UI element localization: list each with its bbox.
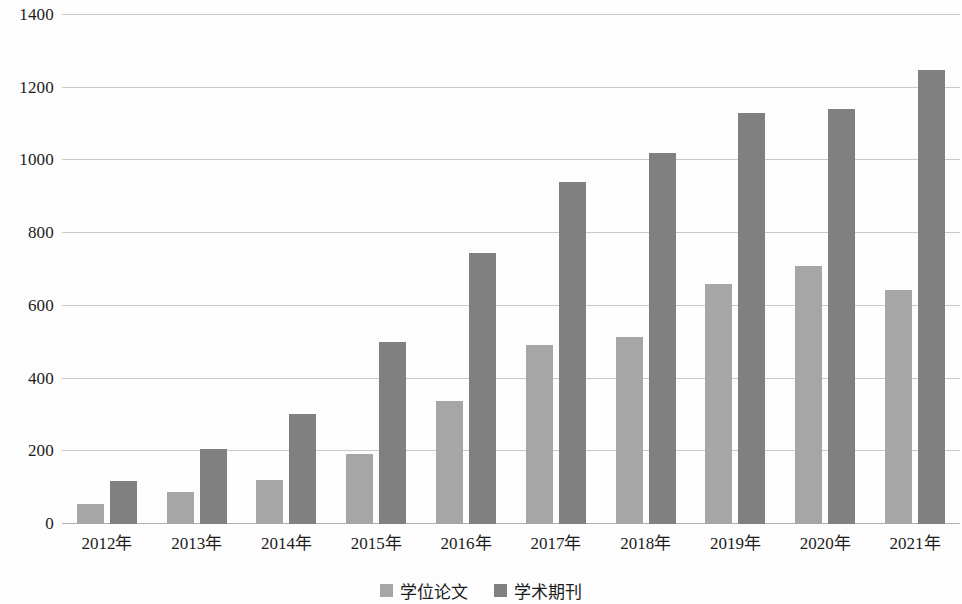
x-axis-tick-label: 2020年 [780,529,870,554]
y-axis-tick-label: 1400 [2,5,54,25]
bar-group [691,15,781,524]
bar [705,284,732,524]
y-axis-tick-label: 0 [2,514,54,534]
x-axis-tick-label: 2016年 [421,529,511,554]
legend-swatch-icon [494,584,507,597]
bar-group [62,15,152,524]
legend-swatch-icon [380,584,393,597]
x-axis-tick-label: 2019年 [691,529,781,554]
legend-item: 学术期刊 [494,578,582,603]
x-axis-tick-label: 2015年 [331,529,421,554]
bar [885,290,912,524]
bar [346,454,373,524]
x-axis-tick-label: 2014年 [242,529,332,554]
bar [77,504,104,524]
bar-group [242,15,332,524]
x-axis-tick-label: 2013年 [152,529,242,554]
bar [918,70,945,524]
x-axis-tick-label: 2017年 [511,529,601,554]
y-axis-labels: 0200400600800100012001400 [0,15,54,524]
bar-group [511,15,601,524]
bar [559,182,586,524]
bar [469,253,496,524]
y-axis-tick-label: 800 [2,223,54,243]
bar-group [152,15,242,524]
x-axis-tick-label: 2021年 [870,529,960,554]
bar-groups [62,15,960,524]
bar [738,113,765,524]
bar [436,401,463,524]
legend-label: 学位论文 [400,578,468,603]
bar [649,153,676,524]
y-axis-tick-label: 400 [2,369,54,389]
bar [167,492,194,524]
bar-group [601,15,691,524]
bar [289,414,316,524]
y-axis-tick-label: 1000 [2,150,54,170]
bar-group [780,15,870,524]
bar-chart: 0200400600800100012001400 2012年2013年2014… [0,0,962,604]
chart-legend: 学位论文学术期刊 [0,578,962,603]
bar [379,342,406,524]
bar-group [331,15,421,524]
bar-group [870,15,960,524]
y-axis-tick-label: 200 [2,441,54,461]
bar [795,266,822,524]
x-axis-tick-label: 2018年 [601,529,691,554]
legend-item: 学位论文 [380,578,468,603]
y-axis-tick-label: 1200 [2,78,54,98]
bar [526,345,553,524]
bar [616,337,643,524]
bar [828,109,855,524]
x-axis-labels: 2012年2013年2014年2015年2016年2017年2018年2019年… [62,529,960,554]
legend-label: 学术期刊 [514,578,582,603]
bar [200,449,227,524]
x-axis-tick-label: 2012年 [62,529,152,554]
bar-group [421,15,511,524]
bar [110,481,137,524]
y-axis-tick-label: 600 [2,296,54,316]
bar [256,480,283,524]
